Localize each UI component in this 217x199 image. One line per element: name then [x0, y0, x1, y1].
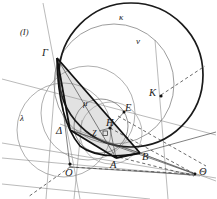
curve-label-lambda: λ: [20, 114, 24, 123]
dash-A-to-theta: [114, 156, 194, 176]
dash-O-bottomleft: [28, 167, 70, 197]
dot-K: [159, 94, 162, 97]
point-label-E: E: [125, 103, 131, 114]
seg-O-theta: [70, 167, 195, 175]
curve-label-nu: ν: [136, 37, 140, 46]
dot-theta: [194, 173, 197, 176]
dash-K-up-right: [161, 66, 205, 95]
point-label-B: B: [142, 152, 148, 163]
geometry-canvas: [0, 0, 217, 199]
geometry-figure: (I) Γ Δ A B E Z H K O Θ κ ν μ λ: [0, 0, 217, 199]
seg-B-upright: [140, 132, 216, 153]
figure-tag-label: (I): [20, 28, 29, 37]
point-label-A: A: [110, 160, 116, 171]
line-bottomleft-upright: [2, 184, 150, 199]
curve-label-mu: μ: [83, 99, 88, 108]
point-label-K: K: [149, 88, 156, 99]
point-label-Z: Z: [92, 130, 96, 138]
curve-label-kappa: κ: [119, 13, 123, 22]
point-label-gamma: Γ: [42, 48, 48, 59]
point-label-H: H: [106, 118, 114, 129]
point-label-O: O: [65, 168, 73, 179]
circle-kappa-outer: [59, 3, 203, 147]
dot-A: [115, 156, 118, 159]
point-label-theta: Θ: [199, 167, 207, 178]
point-label-delta: Δ: [56, 126, 62, 137]
seg-delta-theta: [70, 130, 195, 174]
dot-O: [68, 162, 71, 165]
